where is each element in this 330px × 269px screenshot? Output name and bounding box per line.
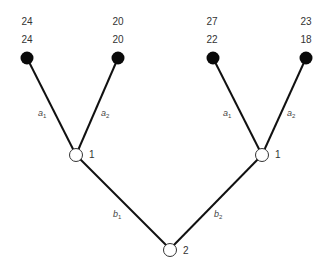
decision-node-right-label: 1: [275, 149, 281, 160]
leaf-node-3: [207, 52, 220, 65]
root-node: [164, 244, 177, 257]
edge-label-right-a2: a2: [287, 108, 296, 119]
edge-right-a1: [213, 58, 262, 155]
decision-node-right: [256, 149, 269, 162]
leaf-3-payoff-bottom: 22: [206, 34, 218, 45]
leaf-node-4: [300, 52, 313, 65]
edge-label-right-a1: a1: [223, 108, 232, 119]
edge-label-b1: b1: [113, 209, 122, 220]
leaf-1-payoff-bottom: 24: [21, 34, 33, 45]
edge-left-a2: [76, 58, 118, 155]
leaf-node-2: [112, 52, 125, 65]
leaf-2-payoff-bottom: 20: [112, 34, 124, 45]
edge-left-a1: [27, 58, 76, 155]
leaf-node-1: [21, 52, 34, 65]
leaf-3-payoff-top: 27: [206, 16, 218, 27]
leaf-4-payoff-top: 23: [300, 16, 312, 27]
edge-b2: [170, 155, 262, 249]
edge-label-left-a2: a2: [101, 108, 110, 119]
leaf-4-payoff-bottom: 18: [300, 34, 312, 45]
decision-node-left: [70, 149, 83, 162]
edge-b1: [76, 155, 170, 249]
leaf-1-payoff-top: 24: [21, 16, 33, 27]
game-tree-diagram: 24 24 20 20 27 22 23 18 a1 a2 a1 a2 b1 b…: [0, 0, 330, 269]
edge-right-a2: [262, 58, 306, 155]
edge-label-left-a1: a1: [38, 108, 47, 119]
leaf-2-payoff-top: 20: [112, 16, 124, 27]
root-node-label: 2: [183, 245, 189, 256]
edge-label-b2: b2: [214, 209, 223, 220]
decision-node-left-label: 1: [89, 149, 95, 160]
